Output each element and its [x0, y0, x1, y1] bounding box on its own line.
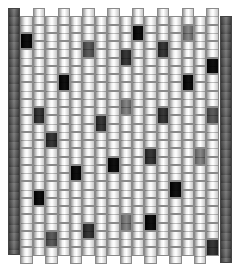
- bead: [169, 198, 181, 215]
- bead: [169, 148, 181, 165]
- bead: [206, 124, 218, 141]
- bead: [120, 181, 132, 198]
- bead: [144, 198, 156, 215]
- bead: [169, 33, 181, 50]
- bead: [33, 173, 45, 190]
- bead: [132, 157, 144, 174]
- bead: [144, 82, 156, 99]
- bead: [82, 91, 94, 108]
- bead: [169, 82, 181, 99]
- bead: [58, 58, 70, 75]
- bead: [120, 231, 132, 248]
- bead: [120, 82, 132, 99]
- bead-column: [132, 8, 144, 256]
- bead: [194, 49, 206, 66]
- bead: [33, 8, 45, 25]
- bead: [95, 33, 107, 50]
- bead: [95, 198, 107, 215]
- bead: [33, 74, 45, 91]
- bead: [120, 33, 132, 50]
- bead: [182, 107, 194, 124]
- bead: [144, 181, 156, 198]
- bead: [206, 58, 218, 75]
- bead: [157, 58, 169, 75]
- bead: [58, 107, 70, 124]
- bead: [182, 8, 194, 25]
- bead: [157, 206, 169, 223]
- bead-column: [20, 16, 32, 264]
- bead: [20, 132, 32, 149]
- bead: [157, 41, 169, 58]
- bead: [206, 8, 218, 25]
- bead: [45, 165, 57, 182]
- bead: [194, 16, 206, 33]
- bead: [120, 198, 132, 215]
- bead: [107, 41, 119, 58]
- bead: [132, 190, 144, 207]
- bead: [132, 8, 144, 25]
- bead: [182, 223, 194, 240]
- bead-column: [58, 8, 70, 256]
- bead: [82, 107, 94, 124]
- bead: [206, 107, 218, 124]
- bead: [206, 206, 218, 223]
- bead: [194, 231, 206, 248]
- bead: [182, 140, 194, 157]
- bead: [33, 223, 45, 240]
- bead: [157, 223, 169, 240]
- bead: [95, 132, 107, 149]
- bead: [20, 198, 32, 215]
- bead: [107, 8, 119, 25]
- bead: [182, 74, 194, 91]
- bead: [33, 41, 45, 58]
- bead: [20, 181, 32, 198]
- bead: [194, 165, 206, 182]
- bead: [194, 148, 206, 165]
- bead: [157, 124, 169, 141]
- bead: [20, 231, 32, 248]
- bead: [157, 140, 169, 157]
- bead: [107, 91, 119, 108]
- bead: [45, 99, 57, 116]
- bead: [194, 132, 206, 149]
- bead: [95, 247, 107, 264]
- bead: [157, 74, 169, 91]
- bead: [107, 107, 119, 124]
- bead: [58, 41, 70, 58]
- bead-column: [206, 8, 218, 256]
- bead: [20, 148, 32, 165]
- bead: [132, 25, 144, 42]
- bead: [20, 16, 32, 33]
- bead-column: [82, 8, 94, 256]
- bead: [194, 99, 206, 116]
- bead-column: [95, 16, 107, 264]
- bead: [20, 66, 32, 83]
- bead: [206, 157, 218, 174]
- bead: [169, 49, 181, 66]
- bead: [95, 82, 107, 99]
- bead: [70, 148, 82, 165]
- bead: [182, 206, 194, 223]
- bead: [169, 181, 181, 198]
- bead-column: [157, 8, 169, 256]
- right-edge: [220, 16, 232, 263]
- bead-column: [169, 16, 181, 264]
- bead: [70, 181, 82, 198]
- bead: [169, 66, 181, 83]
- bead: [45, 198, 57, 215]
- bead: [157, 157, 169, 174]
- bead: [120, 165, 132, 182]
- bead: [82, 223, 94, 240]
- bead: [182, 239, 194, 256]
- bead-column: [107, 8, 119, 256]
- bead: [58, 8, 70, 25]
- bead: [120, 66, 132, 83]
- bead: [45, 33, 57, 50]
- bead: [169, 231, 181, 248]
- bead: [33, 107, 45, 124]
- bead: [120, 214, 132, 231]
- bead: [182, 58, 194, 75]
- bead: [82, 140, 94, 157]
- bead: [70, 16, 82, 33]
- bead: [82, 206, 94, 223]
